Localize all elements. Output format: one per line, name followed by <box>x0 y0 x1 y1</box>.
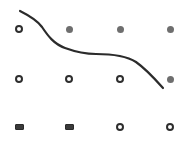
dot-node-icon[interactable] <box>117 26 124 33</box>
ring-node-icon[interactable] <box>65 75 73 83</box>
curve-stroke <box>20 11 163 88</box>
rect-node-icon[interactable] <box>15 124 24 130</box>
ring-node-icon[interactable] <box>166 123 174 131</box>
rect-node-icon[interactable] <box>65 124 74 130</box>
dot-node-icon[interactable] <box>167 26 174 33</box>
ring-node-icon[interactable] <box>15 25 23 33</box>
ring-node-icon[interactable] <box>15 75 23 83</box>
dot-node-icon[interactable] <box>167 76 174 83</box>
pattern-board <box>0 0 190 144</box>
drawn-path-curve <box>0 0 190 144</box>
dot-node-icon[interactable] <box>66 26 73 33</box>
ring-node-icon[interactable] <box>116 123 124 131</box>
ring-node-icon[interactable] <box>116 75 124 83</box>
